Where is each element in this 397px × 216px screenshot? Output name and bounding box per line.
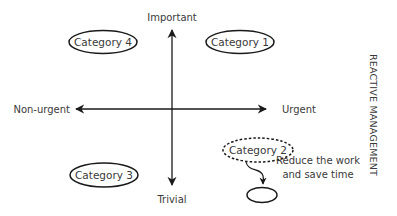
category-4-node: Category 4 bbox=[69, 31, 137, 54]
category-3-node: Category 3 bbox=[70, 163, 138, 187]
category-4-label: Category 4 bbox=[74, 36, 132, 48]
category-1-label: Category 1 bbox=[211, 36, 269, 48]
annotation-line-2: and save time bbox=[282, 169, 353, 180]
category-1-node: Category 1 bbox=[206, 31, 274, 54]
reduced-category-ellipse bbox=[247, 188, 277, 203]
axis-label-trivial: Trivial bbox=[156, 194, 186, 205]
urgency-importance-matrix: Important Trivial Non-urgent Urgent Cate… bbox=[0, 0, 397, 216]
axis-label-important: Important bbox=[147, 12, 197, 23]
category-3-label: Category 3 bbox=[75, 169, 133, 181]
side-title-reactive-management: REACTIVE MANAGEMENT bbox=[368, 54, 379, 176]
reduction-arrow bbox=[246, 162, 263, 184]
axis-label-non-urgent: Non-urgent bbox=[13, 104, 70, 115]
annotation-line-1: Reduce the work bbox=[276, 155, 360, 166]
axis-label-urgent: Urgent bbox=[282, 104, 316, 115]
